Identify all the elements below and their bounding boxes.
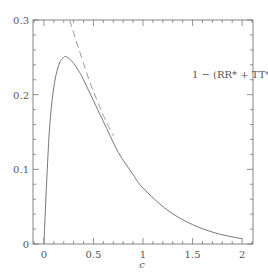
dashed-curve	[70, 20, 114, 136]
x-tick-label: 0	[41, 249, 47, 260]
x-axis-label: c	[139, 259, 145, 270]
chart: 00.511.5200.10.20.3 1 − (RR* + TT*) c	[0, 0, 268, 278]
plot-frame	[33, 20, 253, 244]
x-tick-label: 1.5	[185, 249, 201, 260]
y-tick-label: 0.2	[13, 90, 29, 101]
solid-curve	[44, 56, 242, 244]
axis-ticks	[33, 20, 253, 244]
plot-area: 00.511.5200.10.20.3 1 − (RR* + TT*) c	[0, 0, 268, 278]
y-tick-label: 0.3	[13, 15, 29, 26]
x-tick-label: 2	[239, 249, 245, 260]
y-tick-label: 0	[23, 239, 29, 250]
x-tick-label: 0.5	[85, 249, 101, 260]
y-tick-label: 0.1	[13, 164, 29, 175]
curve-annotation: 1 − (RR* + TT*)	[192, 69, 268, 80]
tick-labels: 00.511.5200.10.20.3	[13, 15, 245, 260]
